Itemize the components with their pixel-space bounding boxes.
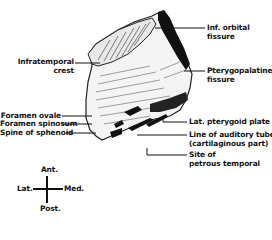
orientation-anterior: Ant. — [41, 166, 58, 175]
label-line: crest — [14, 67, 74, 76]
orientation-lateral: Lat. — [17, 185, 33, 194]
label-line: (cartilaginous part) — [189, 140, 272, 149]
label-pterygopalatine-fissure: Pterygopalatine fissure — [207, 67, 272, 84]
label-lat-pterygoid-plate: Lat. pterygoid plate — [189, 118, 270, 127]
label-infratemporal-crest: Infratemporal crest — [14, 58, 74, 75]
label-line: fissure — [207, 76, 272, 85]
label-spine-of-sphenoid: Spine of sphenoid — [0, 129, 65, 138]
label-line: petrous temporal — [189, 160, 260, 169]
orientation-posterior: Post. — [40, 205, 61, 214]
orientation-medial: Med. — [64, 185, 84, 194]
label-line: Lat. pterygoid plate — [189, 118, 270, 127]
orientation-cross — [33, 176, 63, 203]
label-line-of-auditory-tube: Line of auditory tube (cartilaginous par… — [189, 131, 272, 148]
label-site-of-petrous-temporal: Site of petrous temporal — [189, 151, 260, 168]
label-line: Spine of sphenoid — [0, 129, 65, 138]
label-line: fissure — [207, 33, 250, 42]
label-inf-orbital-fissure: Inf. orbital fissure — [207, 24, 250, 41]
